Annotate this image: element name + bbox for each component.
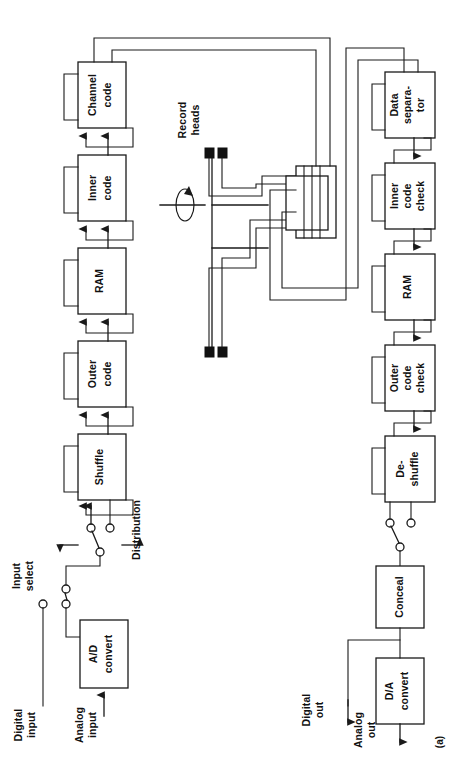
block-shuffle[interactable]: Shuffle xyxy=(78,434,126,500)
input-select-contact-ana[interactable] xyxy=(62,600,70,608)
block-inner-code[interactable]: Inner code xyxy=(78,155,126,221)
block-channel-code-line1: Channel xyxy=(86,74,98,116)
block-outer-code-line2: code xyxy=(101,361,113,386)
block-da-convert[interactable]: D/A convert xyxy=(376,658,424,724)
block-ram-playback-label: RAM xyxy=(401,275,413,299)
record-heads-label-line2: heads xyxy=(189,105,201,136)
block-conceal[interactable]: Conceal xyxy=(376,566,424,628)
record-block-stubs xyxy=(64,74,78,492)
block-inner-code-line1: Inner xyxy=(86,175,98,201)
block-channel-code-line2: code xyxy=(101,82,113,107)
block-outer-code-check-line2: code xyxy=(401,365,413,390)
block-de-shuffle-line2: shuffle xyxy=(408,451,420,486)
digital-output-label-line2: out xyxy=(313,701,325,718)
analog-input-label-line1: Analog xyxy=(73,707,85,743)
block-outer-code-line1: Outer xyxy=(86,360,98,389)
analog-input-label-line2: input xyxy=(86,712,98,739)
block-inner-code-check-line1: Inner xyxy=(388,183,400,209)
input-select-contact-dig[interactable] xyxy=(39,600,47,608)
distribution-contact-a[interactable] xyxy=(87,524,95,532)
analog-output-label-line2: out xyxy=(365,721,377,738)
block-data-separator-line2: separa- xyxy=(401,86,413,124)
input-select-pole[interactable] xyxy=(62,585,70,593)
block-da-convert-line1: D/A xyxy=(383,681,395,700)
distribution-label: Distribution xyxy=(130,500,142,560)
head-pad-3 xyxy=(205,347,214,357)
block-ram-playback[interactable]: RAM xyxy=(385,254,435,320)
block-outer-code-check-line3: check xyxy=(414,363,426,393)
block-inner-code-check[interactable]: Inner code check xyxy=(385,163,435,229)
distribution-pole[interactable] xyxy=(96,548,104,556)
block-ad-convert-line1: A/D xyxy=(87,644,99,663)
playback-chain-group: Data separa- tor Inner code check RAM Ou xyxy=(372,72,435,502)
block-outer-code[interactable]: Outer code xyxy=(78,341,126,407)
block-ad-convert-line2: convert xyxy=(102,634,114,673)
block-de-shuffle[interactable]: De- shuffle xyxy=(385,436,435,502)
distribution-switch-group[interactable]: Distribution xyxy=(60,500,142,585)
block-ram-record-label: RAM xyxy=(93,269,105,293)
record-heads-label-line1: Record xyxy=(176,102,188,139)
input-select-label-line2: select xyxy=(23,560,35,591)
head-pad-2 xyxy=(218,148,227,158)
block-data-separator[interactable]: Data separa- tor xyxy=(385,72,435,138)
input-select-label-line1: Input xyxy=(10,563,22,590)
block-data-separator-line1: Data xyxy=(388,93,400,116)
head-pad-1 xyxy=(205,148,214,158)
rotary-transformer-block xyxy=(286,166,336,238)
digital-output-label-line1: Digital xyxy=(300,694,312,727)
block-outer-code-check[interactable]: Outer code check xyxy=(385,345,435,411)
record-input-links xyxy=(91,500,110,524)
block-channel-code[interactable]: Channel code xyxy=(78,62,126,128)
rotation-arrow-icon xyxy=(160,186,205,221)
block-inner-code-check-line2: code xyxy=(401,183,413,208)
record-chain-group: Channel code Inner code RAM Outer code xyxy=(64,62,133,515)
output-contact-a[interactable] xyxy=(386,519,394,527)
block-inner-code-line2: code xyxy=(101,175,113,200)
figure-caption: (a) xyxy=(434,736,445,748)
block-ram-record[interactable]: RAM xyxy=(78,248,126,314)
output-contact-b[interactable] xyxy=(407,519,415,527)
digital-input-label-line2: input xyxy=(25,712,37,739)
block-de-shuffle-line1: De- xyxy=(394,460,406,478)
block-shuffle-label: Shuffle xyxy=(93,449,105,485)
block-inner-code-check-line3: check xyxy=(414,181,426,211)
io-label-group: Digital input Analog input Digital out A… xyxy=(12,694,377,748)
diagram-stage: Channel code Inner code RAM Outer code xyxy=(0,0,472,768)
head-assembly-group: Record heads xyxy=(160,102,336,357)
block-da-convert-line2: convert xyxy=(398,671,410,710)
analog-output-label-line1: Analog xyxy=(352,712,364,748)
block-outer-code-check-line1: Outer xyxy=(388,364,400,393)
distribution-contact-b[interactable] xyxy=(106,524,114,532)
output-switch-group[interactable] xyxy=(386,502,415,566)
block-conceal-label: Conceal xyxy=(393,576,405,618)
figure-canvas: Channel code Inner code RAM Outer code xyxy=(0,0,472,768)
input-select-switch-group[interactable]: Input select xyxy=(10,560,80,706)
digital-input-label-line1: Digital xyxy=(12,709,24,742)
block-ad-convert[interactable]: A/D convert xyxy=(80,620,128,716)
output-pole[interactable] xyxy=(396,543,404,551)
head-pad-4 xyxy=(218,347,227,357)
block-data-separator-line3: tor xyxy=(414,98,426,112)
playback-block-stubs xyxy=(372,84,385,494)
